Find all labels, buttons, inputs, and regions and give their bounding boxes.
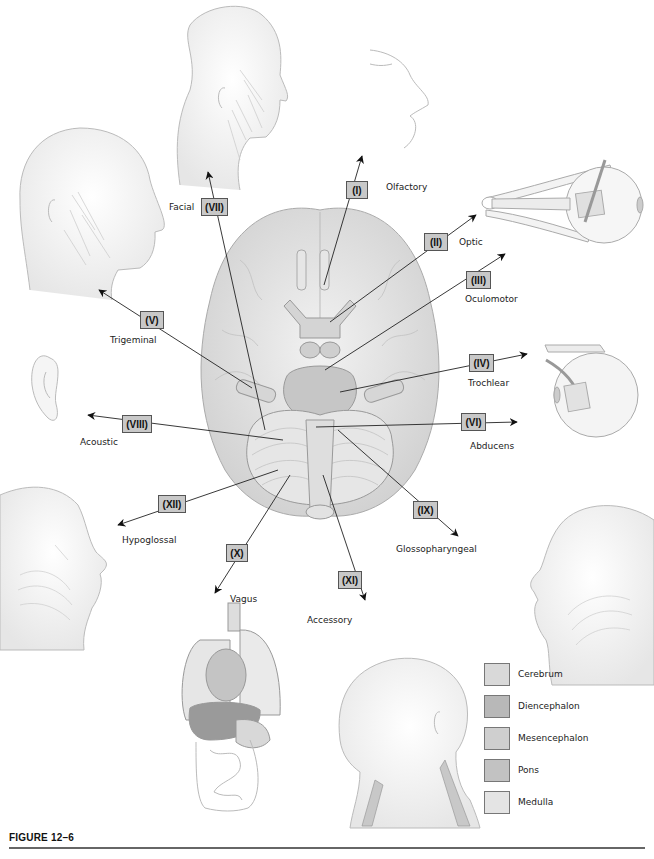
nerve-label-accessory: Accessory — [307, 615, 352, 625]
legend-label: Medulla — [518, 797, 553, 807]
cranial-nerves-figure: (I) Olfactory (II) Optic (III) Oculomoto… — [0, 0, 654, 859]
legend-item-pons: Pons — [484, 754, 588, 786]
nerve-box-olfactory: (I) — [346, 181, 368, 199]
legend-swatch — [484, 663, 510, 686]
vagus-organs-illustration — [182, 603, 280, 811]
olfactory-nose-illustration — [370, 50, 428, 148]
brain-region-legend: Cerebrum Diencephalon Mesencephalon Pons… — [484, 658, 588, 818]
nerve-label-abducens: Abducens — [470, 441, 514, 451]
nerve-box-trochlear: (IV) — [469, 354, 494, 372]
acoustic-ear-illustration — [32, 356, 58, 421]
legend-label: Diencephalon — [518, 701, 580, 711]
nerve-box-trigeminal: (V) — [140, 311, 164, 329]
legend-swatch — [484, 791, 510, 814]
legend-label: Mesencephalon — [518, 733, 588, 743]
brain-inferior-view — [201, 208, 439, 519]
trigeminal-head-illustration — [20, 128, 164, 300]
nerve-label-oculomotor: Oculomotor — [465, 294, 518, 304]
nerve-label-glossopharyngeal: Glossopharyngeal — [396, 544, 477, 554]
nerve-box-facial: (VII) — [201, 198, 228, 216]
nerve-box-optic: (II) — [424, 233, 448, 251]
legend-swatch — [484, 727, 510, 750]
legend-label: Pons — [518, 765, 539, 775]
legend-item-medulla: Medulla — [484, 786, 588, 818]
facial-head-illustration — [177, 6, 287, 190]
nerve-label-trigeminal: Trigeminal — [110, 335, 157, 345]
trochlear-eye-illustration — [545, 345, 638, 437]
nerve-box-abducens: (VI) — [461, 413, 486, 431]
optic-eye-illustration — [482, 160, 643, 243]
nerve-box-vagus: (X) — [226, 544, 248, 562]
nerve-box-glossopharyngeal: (IX) — [413, 501, 438, 519]
nerve-label-optic: Optic — [459, 237, 483, 247]
nerve-box-accessory: (XI) — [338, 571, 362, 589]
legend-item-cerebrum: Cerebrum — [484, 658, 588, 690]
nerve-label-vagus: Vagus — [230, 594, 257, 604]
legend-label: Cerebrum — [518, 669, 563, 679]
nerve-label-trochlear: Trochlear — [468, 378, 509, 388]
caption-divider — [9, 847, 645, 849]
nerve-label-olfactory: Olfactory — [386, 182, 427, 192]
nerve-box-acoustic: (VIII) — [122, 415, 152, 433]
nerve-label-hypoglossal: Hypoglossal — [122, 535, 176, 545]
nerve-box-oculomotor: (III) — [466, 271, 491, 289]
legend-swatch — [484, 759, 510, 782]
nerve-label-acoustic: Acoustic — [80, 437, 118, 447]
nerve-box-hypoglossal: (XII) — [158, 495, 186, 513]
hypoglossal-head-illustration — [0, 487, 106, 650]
figure-caption: FIGURE 12–6 — [9, 832, 74, 843]
nerve-label-facial: Facial — [169, 202, 194, 212]
legend-swatch — [484, 695, 510, 718]
legend-item-diencephalon: Diencephalon — [484, 690, 588, 722]
accessory-head-neck-illustration — [339, 658, 480, 828]
legend-item-mesencephalon: Mesencephalon — [484, 722, 588, 754]
